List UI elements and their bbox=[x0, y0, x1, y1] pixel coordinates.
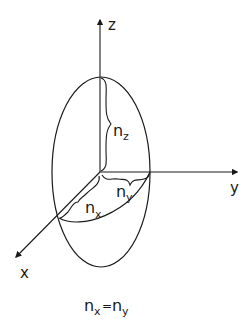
nx-label: n x bbox=[85, 198, 102, 221]
svg-text:=: = bbox=[102, 299, 112, 313]
nz-brace bbox=[101, 78, 111, 171]
svg-text:n: n bbox=[112, 296, 122, 315]
index-ellipsoid-diagram: z y x n z n y n x n x = n y bbox=[0, 0, 248, 335]
svg-text:n: n bbox=[85, 198, 95, 217]
svg-text:y: y bbox=[122, 305, 129, 318]
svg-text:y: y bbox=[126, 191, 133, 204]
caption-nx-equals-ny: n x = n y bbox=[84, 296, 129, 318]
svg-text:z: z bbox=[123, 130, 129, 143]
equatorial-section bbox=[59, 172, 150, 222]
svg-text:x: x bbox=[94, 305, 101, 318]
svg-text:n: n bbox=[116, 182, 126, 201]
nz-label: n z bbox=[113, 121, 129, 143]
svg-text:n: n bbox=[113, 121, 123, 140]
x-axis-label: x bbox=[20, 264, 29, 282]
svg-text:x: x bbox=[95, 208, 102, 221]
y-axis-label: y bbox=[230, 179, 239, 197]
z-axis-label: z bbox=[108, 16, 116, 34]
svg-text:n: n bbox=[84, 296, 94, 315]
